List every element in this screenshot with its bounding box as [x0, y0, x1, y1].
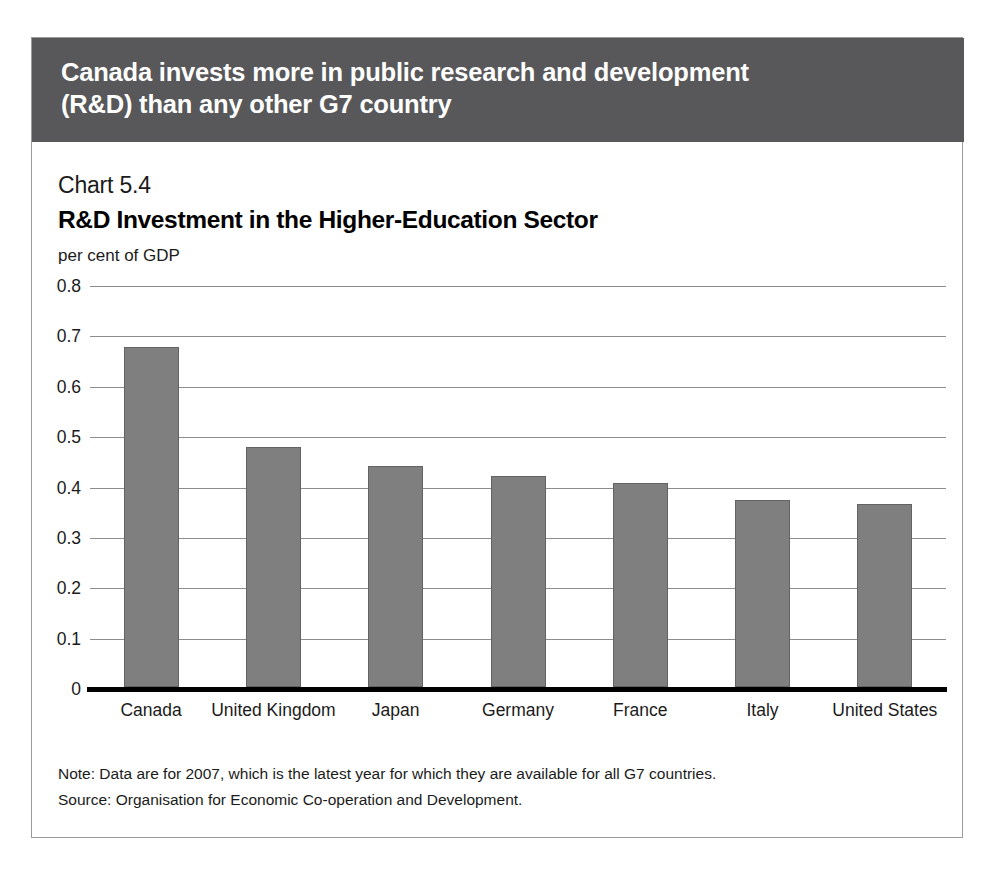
gridline [90, 336, 946, 337]
gridline [90, 387, 946, 388]
bar [613, 483, 668, 687]
x-axis-category-label: United States [832, 700, 937, 721]
plot-area: 0.80.70.60.50.40.30.20.10 CanadaUnited K… [90, 286, 946, 689]
y-axis-tick-label: 0.6 [57, 376, 81, 397]
y-axis-unit-label: per cent of GDP [58, 246, 180, 266]
x-axis-category-label: France [613, 700, 667, 721]
bar [735, 500, 790, 687]
y-axis-tick-label: 0.2 [57, 578, 81, 599]
x-axis-category-label: Italy [747, 700, 779, 721]
chart-title: R&D Investment in the Higher-Education S… [58, 206, 598, 234]
footnotes: Note: Data are for 2007, which is the la… [58, 761, 938, 813]
y-axis-tick-label: 0.7 [57, 326, 81, 347]
bar [857, 504, 912, 687]
bar [246, 447, 301, 687]
gridline [90, 286, 946, 287]
source-text: Source: Organisation for Economic Co-ope… [58, 787, 938, 813]
x-axis-category-label: Canada [120, 700, 181, 721]
gridline [90, 437, 946, 438]
y-axis-tick-label: 0.1 [57, 628, 81, 649]
x-axis-category-label: United Kingdom [211, 700, 336, 721]
note-text: Note: Data are for 2007, which is the la… [58, 761, 938, 787]
y-axis-tick-label: 0.8 [57, 276, 81, 297]
bar [124, 347, 179, 687]
y-axis-tick-label: 0.5 [57, 427, 81, 448]
chart-figure: Canada invests more in public research a… [31, 37, 963, 838]
bar [368, 466, 423, 687]
bar [491, 476, 546, 687]
x-axis-category-label: Germany [482, 700, 554, 721]
header-banner: Canada invests more in public research a… [32, 38, 964, 142]
banner-headline: Canada invests more in public research a… [61, 56, 761, 120]
chart-number-label: Chart 5.4 [58, 172, 151, 199]
x-axis-category-label: Japan [372, 700, 420, 721]
y-axis-tick-label: 0.3 [57, 527, 81, 548]
x-axis-line [87, 687, 947, 692]
y-axis-tick-label: 0 [71, 679, 81, 700]
y-axis-tick-label: 0.4 [57, 477, 81, 498]
